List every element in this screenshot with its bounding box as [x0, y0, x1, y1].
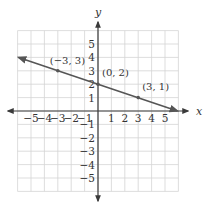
coordinate-plane: −5−4−3−2−112345−5−4−3−2−112345 (−3, 3)(0…: [0, 0, 209, 212]
point-label: (3, 1): [142, 81, 169, 92]
y-tick-label: 1: [88, 92, 95, 104]
x-axis-label: x: [196, 105, 203, 118]
y-tick-label: 5: [88, 38, 95, 50]
y-tick-label: −1: [80, 118, 95, 130]
data-point: [56, 69, 60, 73]
x-tick-label: 4: [148, 112, 155, 124]
y-tick-label: 3: [88, 65, 95, 77]
y-tick-label: −4: [80, 159, 96, 171]
y-tick-label: −2: [80, 132, 95, 144]
y-tick-label: −3: [80, 145, 95, 157]
point-label: (−3, 3): [50, 55, 85, 66]
point-label: (0, 2): [102, 67, 129, 78]
y-tick-label: −5: [80, 172, 95, 184]
y-axis-label: y: [94, 6, 102, 19]
data-point: [136, 96, 140, 100]
x-tick-label: 3: [135, 112, 142, 124]
x-tick-label: 5: [162, 112, 169, 124]
x-tick-label: 1: [108, 112, 115, 124]
y-tick-label: 2: [88, 78, 95, 90]
x-tick-label: 2: [121, 112, 128, 124]
data-point: [96, 82, 100, 86]
y-tick-label: 4: [88, 51, 95, 63]
